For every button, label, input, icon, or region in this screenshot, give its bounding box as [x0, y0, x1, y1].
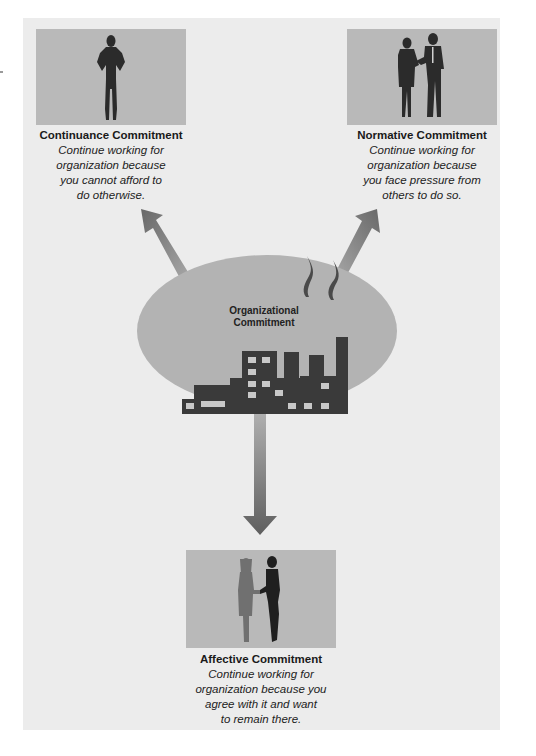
handshake-icon — [186, 550, 336, 648]
two-people-talking-icon — [347, 29, 497, 125]
affective-photo — [186, 550, 336, 648]
normative-title: Normative Commitment — [337, 128, 507, 143]
arrow-to-affective — [243, 400, 277, 535]
person-hands-on-hips-icon — [36, 29, 186, 125]
normative-description: Continue working for organization becaus… — [337, 143, 507, 203]
affective-caption: Affective Commitment Continue working fo… — [171, 652, 351, 727]
continuance-title: Continuance Commitment — [26, 128, 196, 143]
normative-photo — [347, 29, 497, 125]
center-label-line2: Commitment — [214, 317, 314, 329]
affective-title: Affective Commitment — [171, 652, 351, 667]
continuance-photo — [36, 29, 186, 125]
continuance-caption: Continuance Commitment Continue working … — [26, 128, 196, 203]
affective-description: Continue working for organization becaus… — [171, 667, 351, 727]
center-label: Organizational Commitment — [214, 305, 314, 329]
center-label-line1: Organizational — [214, 305, 314, 317]
continuance-description: Continue working for organization becaus… — [26, 143, 196, 203]
normative-caption: Normative Commitment Continue working fo… — [337, 128, 507, 203]
